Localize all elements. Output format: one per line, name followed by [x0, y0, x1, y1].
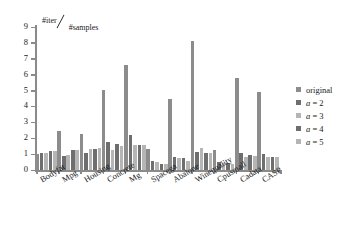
legend-swatch-icon — [296, 113, 301, 118]
legend-swatch-icon — [296, 87, 301, 92]
bar — [200, 148, 204, 170]
legend-item[interactable]: a = 3 — [296, 109, 332, 122]
bar-group — [191, 27, 213, 170]
plot-area — [36, 27, 280, 170]
bar — [44, 153, 48, 170]
bar — [151, 161, 155, 170]
legend-label: a = 2 — [306, 98, 324, 108]
bar-group — [36, 27, 58, 170]
bar — [262, 154, 266, 170]
legend-label: a = 5 — [306, 137, 324, 147]
bar — [102, 90, 106, 170]
chart-legend: originala = 2a = 3a = 4a = 5 — [296, 83, 332, 148]
bar-group — [80, 27, 102, 170]
legend-swatch-icon — [296, 139, 301, 144]
y-tick-label: 3 — [6, 116, 28, 126]
y-tick-label: 1 — [6, 148, 28, 158]
legend-item[interactable]: a = 2 — [296, 96, 332, 109]
bar — [80, 134, 84, 170]
bar — [35, 154, 39, 170]
bar-group — [147, 27, 169, 170]
bar-group — [236, 27, 258, 170]
bar-group — [125, 27, 147, 170]
title-numerator: #iter — [42, 16, 57, 25]
legend-swatch-icon — [296, 126, 301, 131]
legend-item[interactable]: a = 5 — [296, 135, 332, 148]
chart-title: #iter#samples — [42, 11, 98, 28]
legend-swatch-icon — [296, 100, 301, 105]
bar — [146, 149, 150, 170]
bar — [75, 150, 79, 170]
legend-label: a = 3 — [306, 111, 324, 121]
bar — [89, 149, 93, 170]
legend-label: original — [306, 85, 332, 95]
y-tick-label: 2 — [6, 132, 28, 142]
x-tick — [80, 170, 82, 174]
bar — [66, 155, 70, 170]
legend-label: a = 4 — [306, 124, 324, 134]
y-tick-label: 4 — [6, 100, 28, 110]
y-tick-label: 0 — [6, 164, 28, 174]
y-tick-label: 8 — [6, 37, 28, 47]
bar-group — [213, 27, 235, 170]
bar-group — [169, 27, 191, 170]
bar — [266, 157, 270, 170]
bar-chart: #iter#samples 0123456789 BodyfatMpgHousi… — [0, 0, 364, 225]
x-tick — [36, 170, 38, 174]
bar — [111, 150, 115, 170]
bar-group — [258, 27, 280, 170]
y-tick-label: 6 — [6, 69, 28, 79]
bar-group — [58, 27, 80, 170]
y-tick-label: 7 — [6, 53, 28, 63]
x-tick — [147, 170, 149, 174]
bar — [124, 65, 128, 170]
y-tick-label: 5 — [6, 85, 28, 95]
bar-group — [103, 27, 125, 170]
legend-item[interactable]: original — [296, 83, 332, 96]
bar — [168, 99, 172, 171]
bar — [84, 153, 88, 170]
bar — [235, 78, 239, 170]
bar — [40, 153, 44, 170]
bar — [257, 92, 261, 170]
bar — [142, 145, 146, 170]
bar — [138, 145, 142, 170]
y-tick-label: 9 — [6, 21, 28, 31]
legend-item[interactable]: a = 4 — [296, 122, 332, 135]
bar — [191, 41, 195, 170]
